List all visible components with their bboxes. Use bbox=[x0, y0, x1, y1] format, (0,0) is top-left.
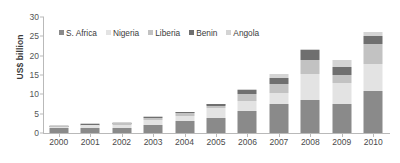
bar-segment[interactable] bbox=[301, 50, 320, 60]
bar-segment[interactable] bbox=[332, 104, 351, 133]
bar-segment[interactable] bbox=[332, 75, 351, 83]
bar-stack[interactable] bbox=[206, 104, 225, 133]
bar-segment[interactable] bbox=[364, 91, 383, 133]
legend-label: Angola bbox=[233, 28, 259, 38]
legend-swatch-icon bbox=[59, 30, 64, 35]
y-tick-label: 25 bbox=[11, 31, 39, 41]
x-tick-label: 2004 bbox=[169, 137, 200, 155]
legend-swatch-icon bbox=[226, 30, 231, 35]
legend-item[interactable]: Nigeria bbox=[106, 28, 139, 38]
x-tick-label: 2006 bbox=[232, 137, 263, 155]
x-tick-label: 2000 bbox=[43, 137, 74, 155]
legend-swatch-icon bbox=[189, 30, 194, 35]
bar-segment[interactable] bbox=[301, 74, 320, 100]
y-tick-label: 0 bbox=[11, 128, 39, 138]
x-tick-label: 2001 bbox=[74, 137, 105, 155]
legend-swatch-icon bbox=[148, 30, 153, 35]
x-tick-label: 2005 bbox=[200, 137, 231, 155]
chart-legend: S. AfricaNigeriaLiberiaBeninAngola bbox=[59, 28, 259, 38]
bar-segment[interactable] bbox=[238, 101, 257, 111]
legend-label: Nigeria bbox=[113, 28, 139, 38]
bar-stack[interactable] bbox=[175, 112, 194, 133]
legend-swatch-icon bbox=[106, 30, 111, 35]
x-axis-labels: 2000200120022003200420052006200720082009… bbox=[43, 137, 389, 155]
x-tick-label: 2007 bbox=[263, 137, 294, 155]
bar-stack[interactable] bbox=[49, 125, 68, 133]
y-tick-label: 20 bbox=[11, 51, 39, 61]
legend-item[interactable]: Benin bbox=[189, 28, 217, 38]
bar-segment[interactable] bbox=[364, 44, 383, 64]
legend-label: Liberia bbox=[155, 28, 180, 38]
x-tick-label: 2010 bbox=[358, 137, 389, 155]
legend-item[interactable]: S. Africa bbox=[59, 28, 97, 38]
legend-item[interactable]: Angola bbox=[226, 28, 259, 38]
bar-stack[interactable] bbox=[332, 60, 351, 133]
bar-stack[interactable] bbox=[112, 122, 131, 133]
bar-column[interactable] bbox=[326, 17, 357, 133]
y-tick-label: 15 bbox=[11, 70, 39, 80]
bar-segment[interactable] bbox=[332, 83, 351, 105]
x-tick-label: 2003 bbox=[137, 137, 168, 155]
bar-segment[interactable] bbox=[364, 36, 383, 45]
stacked-bar-chart: US$ billion 051015202530 S. AfricaNigeri… bbox=[0, 0, 400, 163]
bar-segment[interactable] bbox=[269, 104, 288, 133]
bar-segment[interactable] bbox=[238, 111, 257, 133]
bar-stack[interactable] bbox=[364, 32, 383, 133]
bar-column[interactable] bbox=[295, 17, 326, 133]
bar-segment[interactable] bbox=[144, 125, 163, 133]
bar-segment[interactable] bbox=[332, 60, 351, 67]
bar-segment[interactable] bbox=[206, 118, 225, 133]
legend-label: S. Africa bbox=[66, 28, 97, 38]
y-tick-label: 10 bbox=[11, 89, 39, 99]
bar-segment[interactable] bbox=[175, 121, 194, 133]
bar-stack[interactable] bbox=[238, 89, 257, 133]
y-tick-label: 5 bbox=[11, 109, 39, 119]
x-tick-label: 2002 bbox=[106, 137, 137, 155]
x-tick-label: 2008 bbox=[295, 137, 326, 155]
bar-segment[interactable] bbox=[301, 60, 320, 74]
bar-segment[interactable] bbox=[332, 67, 351, 76]
bar-stack[interactable] bbox=[269, 74, 288, 133]
bar-segment[interactable] bbox=[364, 64, 383, 91]
bar-stack[interactable] bbox=[81, 123, 100, 133]
y-tick-label: 30 bbox=[11, 12, 39, 22]
bar-segment[interactable] bbox=[301, 100, 320, 133]
bar-segment[interactable] bbox=[269, 84, 288, 93]
x-tick-label: 2009 bbox=[326, 137, 357, 155]
legend-label: Benin bbox=[196, 28, 217, 38]
bar-column[interactable] bbox=[263, 17, 294, 133]
bar-segment[interactable] bbox=[206, 108, 225, 118]
bar-stack[interactable] bbox=[301, 49, 320, 133]
bar-column[interactable] bbox=[358, 17, 389, 133]
bar-segment[interactable] bbox=[269, 93, 288, 104]
bar-stack[interactable] bbox=[144, 116, 163, 133]
legend-item[interactable]: Liberia bbox=[148, 28, 180, 38]
bar-segment[interactable] bbox=[238, 94, 257, 101]
